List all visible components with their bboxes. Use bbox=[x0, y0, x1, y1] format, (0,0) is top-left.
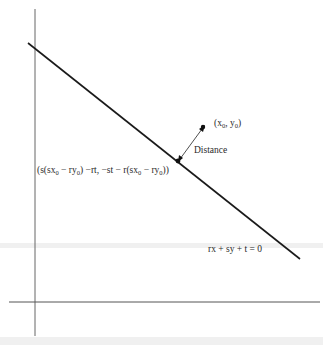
foot-label-text: − ry bbox=[141, 165, 159, 175]
foot-label: (s(sx0 − ry0) −rt, −st − r(sx0 − ry0)) bbox=[37, 166, 169, 177]
foot-label-text: − ry bbox=[59, 165, 77, 175]
point-label-text: , y bbox=[225, 118, 235, 128]
line-rx-sy-t bbox=[28, 43, 300, 259]
point-x0-y0 bbox=[201, 125, 205, 129]
point-label-text: (x bbox=[214, 118, 222, 128]
distance-label: Distance bbox=[194, 146, 227, 156]
point-label: (x0, y0) bbox=[214, 119, 241, 130]
foot-label-text: ) −rt, −st − r(sx bbox=[80, 165, 138, 175]
point-label-text: ) bbox=[238, 118, 241, 128]
foot-point bbox=[176, 159, 181, 164]
foot-label-text: )) bbox=[163, 165, 169, 175]
line-equation-label: rx + sy + t = 0 bbox=[208, 245, 262, 255]
foot-label-text: (s(sx bbox=[37, 165, 55, 175]
